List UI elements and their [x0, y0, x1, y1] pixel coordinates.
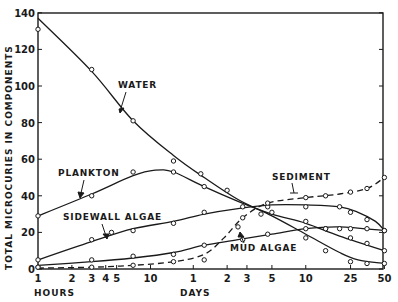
- data-point-marker: [365, 217, 369, 221]
- data-point-marker: [131, 254, 135, 258]
- data-point-marker: [171, 252, 175, 256]
- x-tick-label: 4: [102, 273, 109, 284]
- data-point-marker: [266, 232, 270, 236]
- label-sidewall-algae: SIDEWALL ALGAE: [63, 212, 162, 222]
- data-point-marker: [90, 258, 94, 262]
- y-tick-label: 60: [21, 154, 35, 165]
- data-point-marker: [337, 205, 341, 209]
- data-point-marker: [270, 210, 274, 214]
- label-mud-algae: MUD ALGAE: [230, 243, 297, 253]
- x-tick-label: 2: [224, 273, 231, 284]
- data-point-marker: [199, 172, 203, 176]
- data-point-marker: [382, 175, 386, 179]
- y-tick-label: 120: [14, 44, 35, 55]
- data-point-marker: [323, 194, 327, 198]
- data-point-marker: [202, 210, 206, 214]
- data-point-marker: [382, 261, 386, 265]
- data-point-marker: [348, 236, 352, 240]
- data-point-marker: [348, 210, 352, 214]
- data-point-marker: [236, 225, 240, 229]
- data-point-marker: [36, 258, 40, 262]
- data-point-marker: [131, 228, 135, 232]
- data-point-marker: [36, 27, 40, 31]
- chart: 020406080100120140 12345101235102550 TOT…: [0, 0, 398, 302]
- data-point-marker: [382, 249, 386, 253]
- x-tick-label: 3: [88, 273, 95, 284]
- data-point-marker: [348, 190, 352, 194]
- y-tick-label: 100: [14, 81, 35, 92]
- data-point-marker: [131, 119, 135, 123]
- data-point-marker: [266, 201, 270, 205]
- x-tick-label: 25: [344, 273, 358, 284]
- data-point-marker: [171, 159, 175, 163]
- data-point-marker: [202, 184, 206, 188]
- data-point-marker: [259, 212, 263, 216]
- x-tick-label: 5: [113, 273, 120, 284]
- data-point-marker: [365, 186, 369, 190]
- data-point-marker: [337, 227, 341, 231]
- data-point-marker: [304, 227, 308, 231]
- data-point-marker: [382, 228, 386, 232]
- data-point-marker: [241, 205, 245, 209]
- x-tick-label: 10: [299, 273, 313, 284]
- data-point-marker: [241, 216, 245, 220]
- x-tick-label: 1: [190, 273, 197, 284]
- data-point-marker: [365, 261, 369, 265]
- data-point-marker: [90, 67, 94, 71]
- y-tick-label: 80: [21, 118, 35, 129]
- data-point-marker: [323, 249, 327, 253]
- x-tick-label: 3: [243, 273, 250, 284]
- x-tick-label: 2: [68, 273, 75, 284]
- label-water: WATER: [118, 80, 157, 90]
- data-point-marker: [109, 230, 113, 234]
- data-point-marker: [304, 205, 308, 209]
- data-point-marker: [90, 194, 94, 198]
- data-point-marker: [304, 219, 308, 223]
- y-tick-label: 20: [21, 227, 35, 238]
- data-point-marker: [131, 170, 135, 174]
- data-point-marker: [36, 265, 40, 269]
- data-point-marker: [131, 263, 135, 267]
- y-axis-label: TOTAL MICROCURIES IN COMPONENTS: [4, 45, 14, 270]
- y-tick-label: 40: [21, 191, 35, 202]
- label-plankton: PLANKTON: [58, 168, 120, 178]
- x-unit-days: DAYS: [180, 288, 211, 298]
- data-point-marker: [171, 221, 175, 225]
- data-point-marker: [365, 227, 369, 231]
- data-point-marker: [202, 258, 206, 262]
- x-tick-label: 50: [377, 273, 391, 284]
- data-point-marker: [90, 238, 94, 242]
- data-point-marker: [90, 265, 94, 269]
- label-sediment: SEDIMENT: [272, 172, 331, 182]
- data-point-marker: [348, 260, 352, 264]
- x-unit-hours: HOURS: [34, 288, 75, 298]
- data-point-marker: [304, 195, 308, 199]
- data-point-marker: [171, 170, 175, 174]
- x-tick-label: 5: [268, 273, 275, 284]
- data-point-marker: [202, 243, 206, 247]
- data-point-marker: [304, 236, 308, 240]
- data-point-marker: [36, 214, 40, 218]
- data-point-marker: [348, 227, 352, 231]
- data-point-marker: [323, 227, 327, 231]
- y-tick-label: 140: [14, 8, 35, 19]
- data-point-marker: [365, 241, 369, 245]
- data-point-marker: [171, 260, 175, 264]
- data-point-marker: [225, 188, 229, 192]
- x-tick-label: 1: [35, 273, 42, 284]
- x-tick-label: 10: [144, 273, 158, 284]
